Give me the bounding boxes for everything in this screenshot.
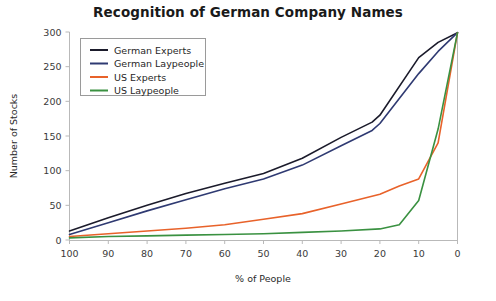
x-tick-label: 70 <box>180 248 192 259</box>
x-tick-label: 90 <box>102 248 114 259</box>
x-tick-label: 50 <box>257 248 269 259</box>
y-tick-label: 50 <box>49 200 61 211</box>
legend-label-0: German Experts <box>114 45 191 56</box>
x-tick-label: 100 <box>60 248 78 259</box>
y-tick-label: 250 <box>43 61 61 72</box>
y-axis-title: Number of Stocks <box>8 94 19 179</box>
x-tick-label: 0 <box>454 248 460 259</box>
y-tick-label: 200 <box>43 96 61 107</box>
legend-label-3: US Laypeople <box>114 85 179 96</box>
y-tick-label: 150 <box>43 131 61 142</box>
x-tick-label: 20 <box>374 248 386 259</box>
x-tick-label: 80 <box>141 248 153 259</box>
legend-label-1: German Laypeople <box>114 58 204 69</box>
x-tick-label: 40 <box>296 248 308 259</box>
y-tick-label: 300 <box>43 27 61 38</box>
chart-legend: German ExpertsGerman LaypeopleUS Experts… <box>81 39 206 97</box>
x-tick-label: 30 <box>335 248 347 259</box>
x-tick-label: 10 <box>413 248 425 259</box>
x-tick-label: 60 <box>219 248 231 259</box>
legend-label-2: US Experts <box>114 72 166 83</box>
y-tick-label: 100 <box>43 165 61 176</box>
x-axis-title: % of People <box>235 273 291 284</box>
y-axis-ticks: 050100150200250300 <box>43 27 69 246</box>
y-tick-label: 0 <box>55 235 61 246</box>
chart-container: Recognition of German Company Names 0501… <box>0 0 496 301</box>
line-chart-plot: 050100150200250300 100908070605040302010… <box>0 0 496 301</box>
x-axis-ticks: 1009080706050403020100 <box>60 240 460 259</box>
